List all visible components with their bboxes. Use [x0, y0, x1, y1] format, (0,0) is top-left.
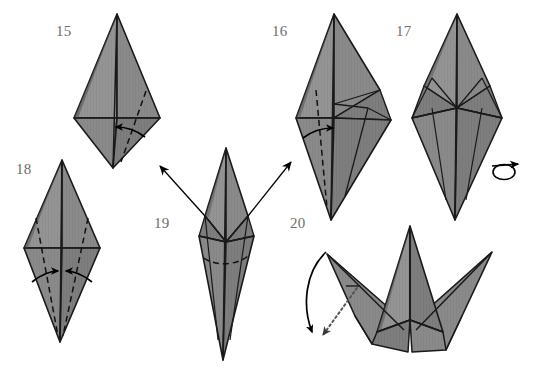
step-17-number: 17 [396, 23, 412, 39]
step-18-number: 18 [16, 161, 32, 177]
step-16-number: 16 [272, 23, 288, 39]
step-19-number: 19 [154, 215, 170, 231]
origami-diagram-page: 15 16 [0, 0, 534, 371]
step-15-number: 15 [56, 23, 72, 39]
diagram-canvas: 15 16 [0, 0, 534, 371]
step-20-number: 20 [290, 215, 306, 231]
